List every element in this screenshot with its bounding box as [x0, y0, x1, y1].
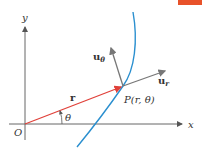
vector-r-label: r	[70, 92, 76, 103]
origin-label: O	[14, 127, 22, 138]
angle-label: θ	[65, 112, 71, 123]
x-axis-label: x	[188, 119, 194, 130]
angle-arc	[60, 111, 62, 124]
u-r-label: ur	[158, 75, 170, 88]
curve	[77, 12, 135, 147]
y-axis-label: y	[21, 12, 28, 23]
unit-vector-u-theta	[111, 48, 123, 86]
polar-diagram: y x O r θ P(r, θ) ur uθ	[0, 0, 202, 153]
point-p-label: P(r, θ)	[123, 94, 155, 105]
u-theta-label: uθ	[93, 51, 105, 64]
